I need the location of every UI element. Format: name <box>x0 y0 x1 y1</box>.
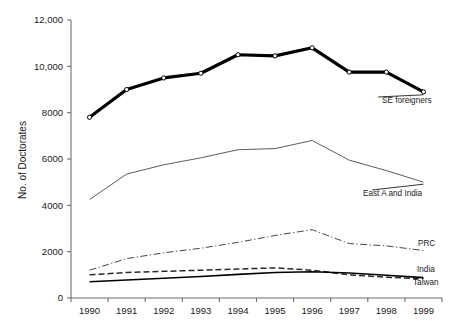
series-label-east-a-and-india: East A and India <box>363 189 423 198</box>
x-tick-label: 1995 <box>264 305 285 316</box>
data-point-marker <box>421 90 425 94</box>
data-point-marker <box>310 46 314 50</box>
x-tick-label: 1992 <box>153 305 174 316</box>
y-tick-label: 6000 <box>42 153 63 164</box>
line-chart-svg: 0200040006000800010,00012,000 1990199119… <box>0 0 451 333</box>
chart-container: 0200040006000800010,00012,000 1990199119… <box>0 0 451 333</box>
x-tick-label: 1990 <box>79 305 100 316</box>
x-axis-tick-labels: 1990199119921993199419951996199719981999 <box>79 305 434 316</box>
y-axis-ticks <box>67 20 71 298</box>
series-inline-labels: SE foreignersEast A and IndiaPRCIndiaTai… <box>363 95 439 287</box>
series-label-prc: PRC <box>418 239 435 248</box>
y-tick-label: 2000 <box>42 246 63 257</box>
x-tick-label: 1998 <box>376 305 397 316</box>
series-line-prc <box>90 230 424 271</box>
data-point-marker <box>162 76 166 80</box>
data-point-marker <box>125 87 129 91</box>
series-label-taiwan: Taiwan <box>413 278 439 287</box>
y-tick-label: 12,000 <box>34 14 63 25</box>
x-tick-label: 1991 <box>116 305 137 316</box>
x-axis-ticks <box>71 298 442 302</box>
series-line-se-foreigners <box>90 48 424 118</box>
y-tick-label: 10,000 <box>34 61 63 72</box>
data-point-marker <box>236 53 240 57</box>
y-axis-title: No. of Doctorates <box>17 121 28 199</box>
data-point-marker <box>87 115 91 119</box>
y-tick-label: 4000 <box>42 200 63 211</box>
x-tick-label: 1993 <box>190 305 211 316</box>
series-label-se-foreigners: SE foreigners <box>382 96 432 105</box>
data-point-marker <box>199 71 203 75</box>
x-tick-label: 1994 <box>227 305 248 316</box>
x-tick-label: 1996 <box>302 305 323 316</box>
y-tick-label: 8000 <box>42 107 63 118</box>
x-tick-label: 1997 <box>339 305 360 316</box>
y-axis-tick-labels: 0200040006000800010,00012,000 <box>34 14 63 303</box>
data-point-marker <box>347 70 351 74</box>
x-tick-label: 1999 <box>413 305 434 316</box>
y-tick-label: 0 <box>58 292 63 303</box>
data-point-marker <box>384 70 388 74</box>
series-paths-group <box>90 48 424 282</box>
data-point-marker <box>273 54 277 58</box>
series-label-india: India <box>417 265 435 274</box>
